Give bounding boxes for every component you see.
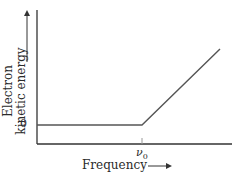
x-axis-label: Frequency (82, 158, 147, 172)
data-line (37, 49, 220, 125)
chart-canvas (0, 0, 237, 178)
y-tick-zero: 0 (20, 117, 27, 130)
